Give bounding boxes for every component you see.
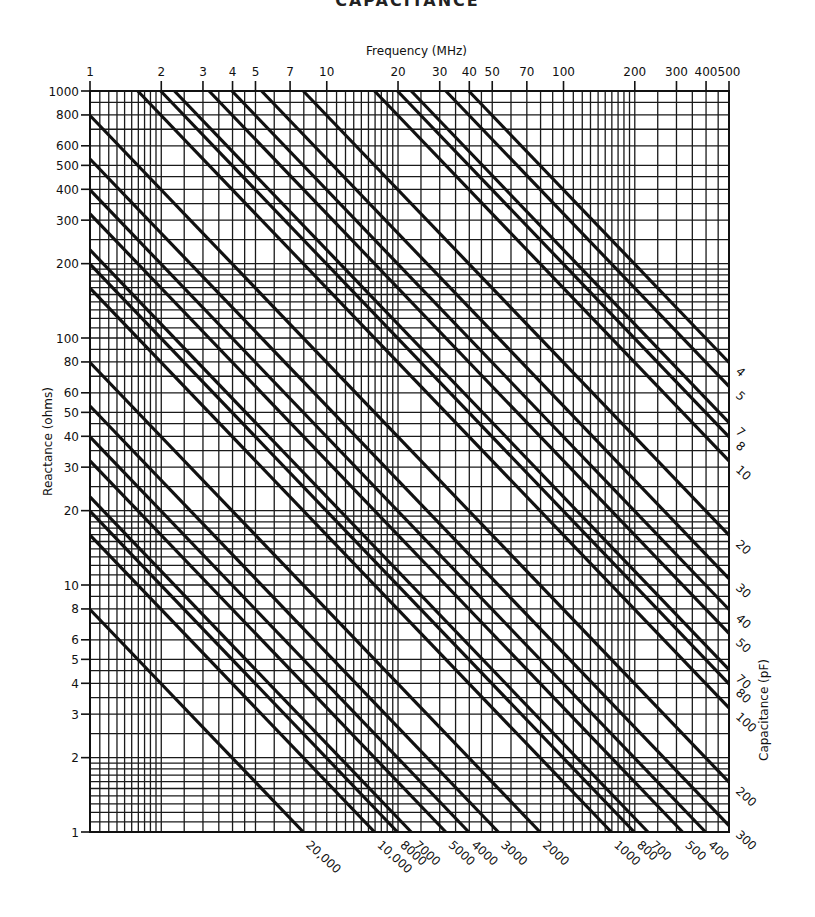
capacitance-line-7pf xyxy=(411,91,729,423)
y-tick-label: 6 xyxy=(71,633,79,647)
capacitance-label: 50 xyxy=(733,635,754,656)
capacitance-line-30pf xyxy=(262,91,729,579)
y-tick-label: 5 xyxy=(71,653,79,667)
capacitance-label: 500 xyxy=(683,838,709,864)
capacitance-label: 3000 xyxy=(498,838,530,869)
capacitance-label: 400 xyxy=(706,838,732,864)
y-tick-label: 1 xyxy=(71,826,79,840)
capacitance-line-1000pf xyxy=(90,288,611,832)
y-tick-label: 20 xyxy=(64,504,79,518)
x-tick-label: 500 xyxy=(718,65,741,79)
x-tick-label: 100 xyxy=(552,65,575,79)
y-axis-title: Reactance (ohms) xyxy=(41,387,55,496)
y-tick-label: 2 xyxy=(71,751,79,765)
capacitance-line-4pf xyxy=(469,91,729,363)
y-tick-label: 30 xyxy=(64,461,79,475)
x-tick-label: 3 xyxy=(199,65,207,79)
x-tick-label: 50 xyxy=(485,65,500,79)
y-tick-label: 8 xyxy=(71,602,79,616)
x-tick-label: 30 xyxy=(432,65,447,79)
capacitance-label: 300 xyxy=(733,827,759,853)
capacitance-line-500pf xyxy=(90,214,683,832)
x-tick-label: 300 xyxy=(665,65,688,79)
x-tick-label: 5 xyxy=(252,65,260,79)
y-tick-label: 200 xyxy=(56,257,79,271)
y-tick-label: 300 xyxy=(56,214,79,228)
capacitance-line-2000pf xyxy=(90,363,540,832)
y-tick-label: 600 xyxy=(56,139,79,153)
capacitance-line-20000pf xyxy=(90,610,303,832)
y-tick-label: 10 xyxy=(64,579,79,593)
capacitance-line-300pf xyxy=(90,159,729,826)
capacitance-label: 20,000 xyxy=(303,838,344,877)
x-tick-label: 40 xyxy=(462,65,477,79)
y-tick-label: 400 xyxy=(56,183,79,197)
y-tick-label: 800 xyxy=(56,108,79,122)
x-tick-label: 400 xyxy=(695,65,718,79)
x-tick-label: 70 xyxy=(519,65,534,79)
capacitance-lines xyxy=(90,91,729,832)
y-tick-label: 500 xyxy=(56,159,79,173)
x-tick-label: 2 xyxy=(157,65,165,79)
capacitance-line-40pf xyxy=(232,91,729,610)
capacitance-label: 10 xyxy=(733,463,754,484)
x-tick-label: 4 xyxy=(229,65,237,79)
y-tick-label: 60 xyxy=(64,386,79,400)
capacitance-label: 2000 xyxy=(540,838,572,869)
capacitance-label: 7 xyxy=(733,424,748,440)
capacitance-label: 8 xyxy=(733,439,748,455)
capacitance-line-3000pf xyxy=(90,406,498,832)
capacitance-line-100pf xyxy=(138,91,729,708)
x-tick-label: 200 xyxy=(623,65,646,79)
x-tick-label: 1 xyxy=(86,65,94,79)
capacitance-line-200pf xyxy=(90,116,729,783)
x-tick-label: 10 xyxy=(319,65,334,79)
capacitance-label: 40 xyxy=(733,611,754,632)
capacitance-label: 20 xyxy=(733,537,754,558)
y-tick-label: 4 xyxy=(71,677,79,691)
y-tick-label: 3 xyxy=(71,708,79,722)
capacitance-line-5pf xyxy=(446,91,729,386)
x-tick-label: 7 xyxy=(286,65,294,79)
y-tick-label: 50 xyxy=(64,406,79,420)
capacitance-line-80pf xyxy=(161,91,729,684)
capacitance-label: 30 xyxy=(733,580,754,601)
capacitance-line-20pf xyxy=(303,91,729,535)
capacitance-label: 200 xyxy=(733,784,759,810)
y-tick-label: 100 xyxy=(56,332,79,346)
capacitance-label: 100 xyxy=(733,710,759,736)
x-tick-label: 20 xyxy=(390,65,405,79)
capacitance-label: 5 xyxy=(733,388,748,404)
reactance-nomograph-chart: 1234571020304050701002003004005001234568… xyxy=(0,0,815,917)
capacitance-label: 4 xyxy=(733,364,748,380)
y-tick-label: 40 xyxy=(64,430,79,444)
capacitance-label: 80 xyxy=(733,686,754,707)
y-tick-label: 1000 xyxy=(48,85,79,99)
y-tick-label: 80 xyxy=(64,355,79,369)
capacitance-axis-title: Capacitance (pF) xyxy=(757,659,771,761)
